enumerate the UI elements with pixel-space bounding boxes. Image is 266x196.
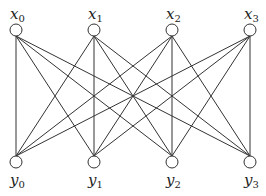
node-y0	[10, 156, 22, 168]
label-x1: x1	[88, 5, 103, 24]
label-x0: x0	[10, 5, 25, 24]
label-y0: y0	[9, 171, 25, 190]
label-y1: y1	[87, 171, 103, 190]
label-x3: x3	[244, 5, 259, 24]
node-x2	[166, 24, 178, 36]
label-x2: x2	[166, 5, 181, 24]
label-y3: y3	[243, 171, 259, 190]
node-x0	[10, 24, 22, 36]
edges	[16, 36, 250, 156]
node-x1	[88, 24, 100, 36]
node-y1	[88, 156, 100, 168]
node-x3	[244, 24, 256, 36]
label-y2: y2	[165, 171, 181, 190]
bipartite-graph-diagram: x0x1x2x3y0y1y2y3	[0, 0, 266, 196]
node-y3	[244, 156, 256, 168]
node-y2	[166, 156, 178, 168]
